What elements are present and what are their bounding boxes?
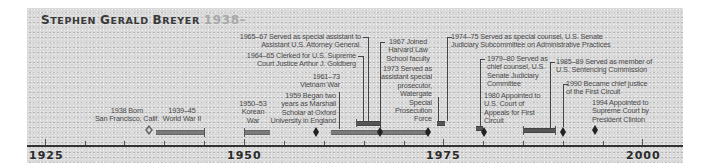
axis-label-1950: 1950 (227, 149, 262, 162)
tick-1975 (443, 139, 444, 145)
event-watergate-label: 1973 Served asassistant specialprosecuto… (370, 65, 432, 124)
event-chief-counsel-label: 1979–80 Served aschief counsel, U.S.Sena… (487, 55, 548, 89)
tick-1995 (603, 141, 604, 145)
tick-1930 (85, 141, 86, 145)
event-goldberg-label: 1964–65 Clerked for U.S. SupremeCourt Ju… (230, 52, 356, 69)
tick-1935 (124, 141, 125, 145)
bar-1985-89 (523, 128, 555, 133)
leader-line (550, 62, 551, 128)
leader-line (480, 59, 481, 126)
birth-marker-icon (145, 125, 151, 134)
axis-label-1925: 1925 (29, 149, 64, 162)
bar-cap (555, 126, 556, 135)
axis-label-2000: 2000 (626, 149, 661, 162)
tick-1990 (563, 141, 564, 145)
tick-1960 (324, 141, 325, 145)
tick-1940 (164, 141, 165, 145)
event-sentencing-label: 1985–89 Served as member ofU.S. Sentenci… (556, 58, 652, 75)
event-marshall-label: 1959 Began twoyears as MarshallScholar a… (256, 92, 336, 126)
diamond-marker-icon (481, 127, 487, 136)
leader-line (339, 92, 340, 129)
diamond-marker-icon (560, 127, 566, 136)
title-years: 1938– (204, 13, 246, 27)
tick-1985 (523, 141, 524, 145)
bar-cap (204, 128, 205, 137)
bar-cap (244, 128, 245, 137)
bar-world-war-ii (156, 130, 204, 135)
tick-1970 (404, 141, 405, 145)
leader-line (563, 84, 564, 127)
leader-line (368, 37, 369, 121)
axis-label-1975: 1975 (426, 149, 461, 162)
event-first-circuit-label: 1980 Appointed toU.S. Court ofAppeals fo… (484, 92, 540, 126)
leader-line (438, 97, 439, 121)
event-attorney-label: 1965–67 Served as special assistant toAs… (216, 33, 361, 50)
diamond-marker-icon (313, 127, 319, 136)
tick-2000 (642, 139, 643, 145)
diamond-marker-icon (592, 125, 598, 134)
event-chief-justice-label: 1990 Became chief justiceof the First Ci… (566, 80, 647, 97)
diamond-marker-icon (425, 127, 431, 136)
tick-1950 (244, 139, 245, 145)
event-counsel-label: 1974–75 Served as special counsel, U.S. … (451, 33, 611, 50)
tick-1945 (204, 141, 205, 145)
tick-1965 (364, 141, 365, 145)
leader-line (363, 56, 364, 121)
bar-korean-war (244, 130, 270, 135)
tick-1955 (284, 141, 285, 145)
bar-cap (523, 126, 524, 135)
event-harvard-label: 1967 JoinedHarvard LawSchool faculty (384, 38, 432, 63)
event-ww2-label: 1939–45World War II (154, 107, 210, 124)
diamond-marker-icon (377, 127, 383, 136)
tick-1980 (483, 141, 484, 145)
timeline-axis (27, 145, 683, 147)
bar-cap (356, 119, 357, 127)
leader-line (447, 37, 448, 121)
bar-1974-75 (437, 121, 445, 126)
page-title: STEPHEN GERALD BREYER1938– (41, 13, 246, 27)
tick-1925 (45, 139, 46, 145)
event-vietnam-label: 1961–73Vietnam War (290, 73, 340, 90)
event-supreme-label: 1994 Appointed toSupreme Court byPreside… (592, 99, 649, 124)
